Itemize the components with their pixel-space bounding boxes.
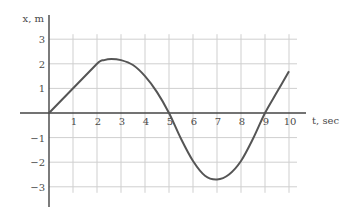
- x-tick-label: 4: [143, 116, 149, 127]
- x-axis-label: t, sec: [312, 115, 339, 126]
- x-tick-label: 6: [191, 116, 197, 127]
- x-tick-label: 10: [284, 116, 297, 127]
- y-tick-label: 1: [39, 83, 45, 94]
- y-tick-label: 2: [39, 59, 45, 70]
- x-tick-label: 7: [215, 116, 221, 127]
- y-axis-label: x, m: [23, 13, 45, 24]
- y-tick-label: −3: [30, 182, 45, 193]
- x-tick-label: 2: [95, 116, 101, 127]
- x-tick-label: 3: [119, 116, 125, 127]
- y-tick-label: −2: [30, 157, 45, 168]
- y-tick-label: −1: [30, 133, 45, 144]
- x-tick-label: 1: [71, 116, 77, 127]
- y-tick-label: 3: [39, 34, 45, 45]
- x-tick-label: 8: [239, 116, 245, 127]
- position-time-chart: 12345678910 321−1−2−3 x, m t, sec: [0, 0, 354, 211]
